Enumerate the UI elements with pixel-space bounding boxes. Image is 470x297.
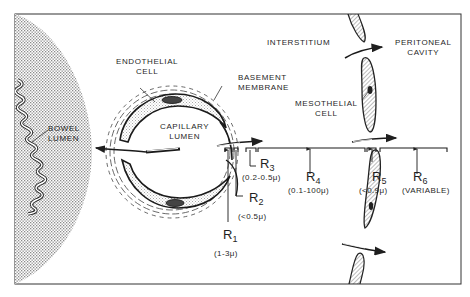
resistance-r3-range: (0.2-0.5μ) (242, 173, 281, 182)
r6-sub: 6 (422, 176, 427, 186)
r3-sub: 3 (269, 163, 274, 173)
resistance-line (225, 148, 447, 152)
basement-membrane-text: BASEMENT MEMBRANE (238, 73, 289, 93)
label-peritoneal-cavity: PERITONEAL CAVITY (395, 38, 452, 58)
arrow-mesothelium-top[interactable] (345, 47, 382, 58)
r2-symbol: R (249, 190, 258, 205)
r4-sub: 4 (315, 176, 320, 186)
resistance-r5-range: (<0.9μ) (359, 186, 388, 195)
r5-symbol: R (372, 169, 381, 184)
arrow-to-bowel[interactable] (96, 148, 146, 152)
r2-sub: 2 (258, 197, 263, 207)
resistance-r4-range: (0.1-100μ) (288, 186, 329, 195)
label-mesothelial-cell: MESOTHELIAL CELL (295, 99, 358, 119)
label-interstitium: INTERSTITIUM (267, 38, 330, 48)
mesothelial-cell-text: MESOTHELIAL CELL (295, 99, 358, 119)
r5-sub: 5 (381, 176, 386, 186)
mesothelial-nucleus (368, 86, 373, 94)
label-endothelial-cell: ENDOTHELIAL CELL (116, 57, 178, 77)
label-basement-membrane: BASEMENT MEMBRANE (238, 73, 289, 93)
endothelial-nucleus-upper (162, 97, 182, 104)
mesothelial-cell-bottom (349, 253, 364, 284)
diagram-canvas: BOWEL LUMEN ENDOTHELIAL CELL BASEMENT ME… (0, 0, 470, 297)
bowel-wall (15, 14, 92, 284)
r1-sub: 1 (232, 234, 237, 244)
label-bowel-lumen: BOWEL LUMEN (48, 124, 80, 144)
endothelial-cell-text: ENDOTHELIAL CELL (116, 57, 178, 77)
r3-symbol: R (260, 156, 269, 171)
label-capillary-lumen: CAPILLARY LUMEN (160, 122, 209, 142)
resistance-r1-range: (1-3μ) (214, 249, 238, 258)
mesothelial-nucleus-lower (369, 202, 373, 210)
resistance-r6-range: (VARIABLE) (402, 186, 450, 195)
r1-symbol: R (223, 227, 232, 242)
r6-symbol: R (413, 169, 422, 184)
bowel-lumen-text: BOWEL LUMEN (48, 124, 80, 144)
r4-symbol: R (306, 169, 315, 184)
arrow-mesothelium-mid[interactable] (352, 138, 396, 142)
mesothelial-cell-middle (362, 58, 377, 132)
mesothelial-cell-top (348, 14, 365, 42)
interstitium-text: INTERSTITIUM (267, 38, 330, 48)
endothelial-nucleus-lower (166, 200, 184, 207)
capillary-lumen-text: CAPILLARY LUMEN (160, 122, 209, 142)
resistance-r2-range: (<0.5μ) (238, 212, 267, 221)
peritoneal-cavity-text: PERITONEAL CAVITY (395, 38, 452, 58)
resistance-r1-label: R1 (223, 228, 237, 246)
resistance-r2-label: R2 (249, 191, 263, 209)
